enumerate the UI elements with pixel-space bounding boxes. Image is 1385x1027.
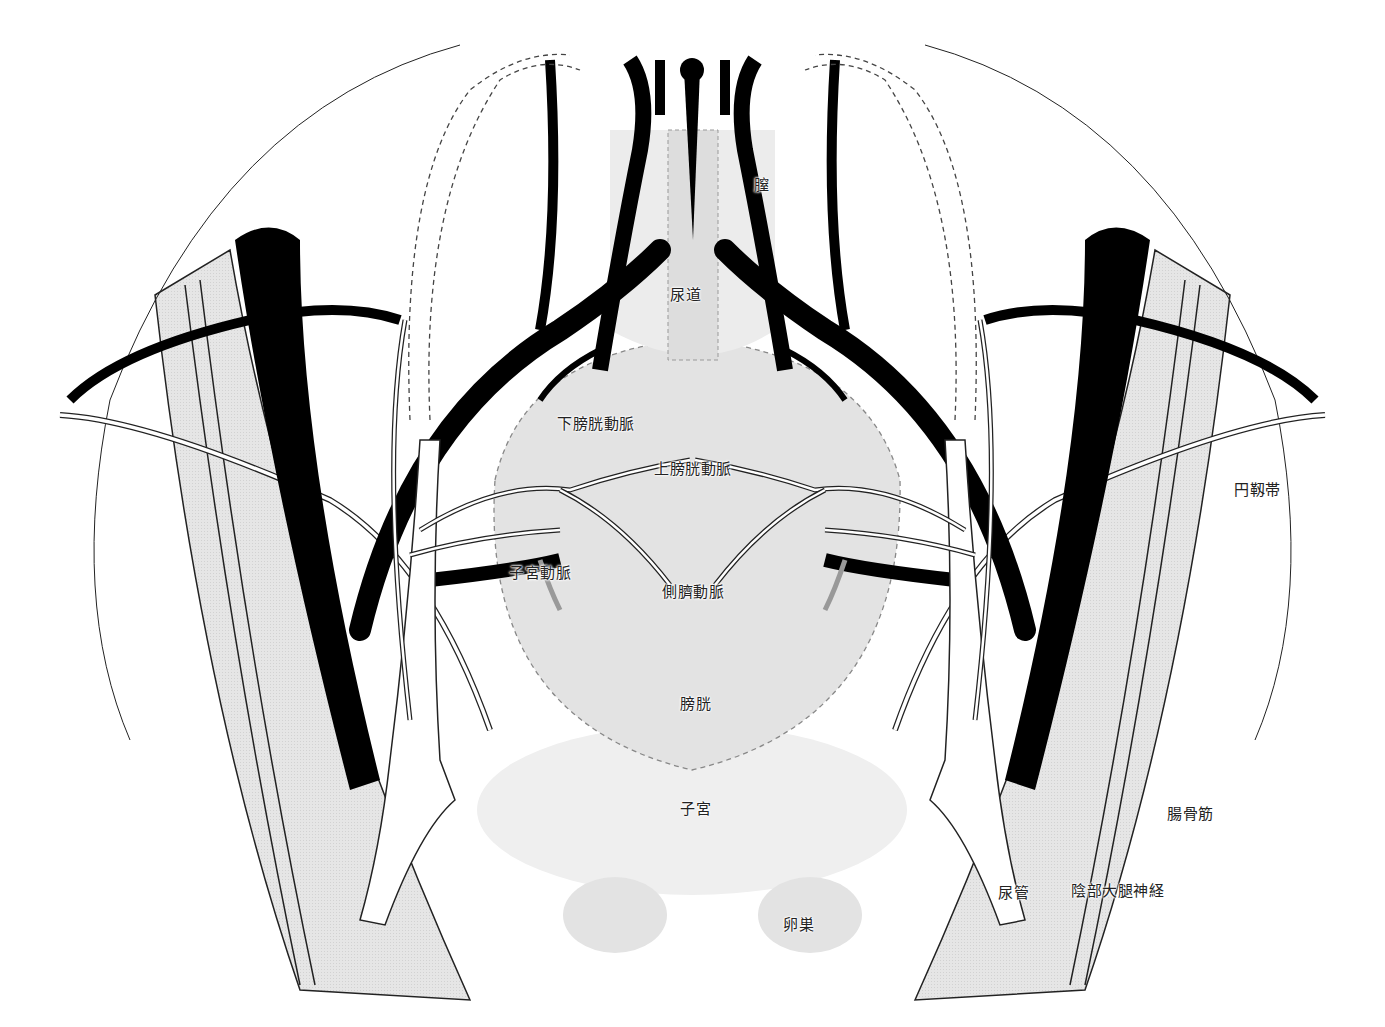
- label-uterine-artery: 子宮動脈: [509, 566, 571, 581]
- label-vagina: 膣: [754, 178, 770, 193]
- label-uterus: 子宮: [680, 802, 711, 817]
- label-round-ligament: 円靱帯: [1234, 483, 1281, 498]
- label-ovary: 卵巣: [783, 918, 814, 933]
- label-inferior-vesical-artery: 下膀胱動脈: [557, 417, 635, 432]
- label-iliacus-muscle: 腸骨筋: [1167, 807, 1214, 822]
- diagram-canvas: [0, 0, 1385, 1027]
- pelvic-anatomy-diagram: 膣 尿道 下膀胱動脈 上膀胱動脈 子宮動脈 側臍動脈 円靱帯 膀胱 子宮 卵巣 …: [0, 0, 1385, 1027]
- label-lateral-umbilical-artery: 側臍動脈: [662, 585, 724, 600]
- label-genitofemoral-nerve: 陰部大腿神経: [1071, 884, 1164, 899]
- label-superior-vesical-artery: 上膀胱動脈: [654, 462, 732, 477]
- left-ovary-shape: [563, 877, 667, 953]
- label-bladder: 膀胱: [680, 697, 711, 712]
- label-ureter: 尿管: [998, 886, 1029, 901]
- right-ovary-shape: [758, 877, 862, 953]
- label-urethra: 尿道: [670, 288, 701, 303]
